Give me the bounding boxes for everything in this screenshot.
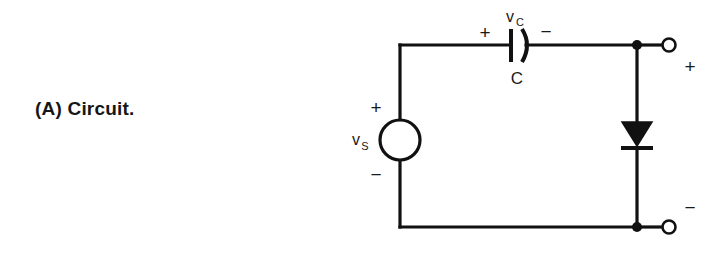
- voltage-source-symbol: [380, 120, 420, 160]
- voltage-source-plus-sign: +: [370, 97, 381, 118]
- diode-triangle: [622, 122, 652, 146]
- figure-caption: (A) Circuit.: [35, 98, 135, 120]
- voltage-source-label: v: [352, 131, 360, 148]
- voltage-source-minus-sign: −: [370, 164, 381, 185]
- output-minus-sign: −: [684, 197, 695, 218]
- capacitor-voltage-label: v: [506, 8, 514, 25]
- output-terminal-positive-icon: [663, 39, 676, 52]
- capacitor-plus-sign: +: [479, 22, 490, 43]
- output-terminal-negative-icon: [663, 221, 676, 234]
- junction-dot-top-right: [632, 40, 642, 50]
- capacitor-voltage-label-subscript: C: [516, 16, 524, 28]
- capacitor-minus-sign: −: [540, 21, 551, 42]
- circuit-diagram: v S + − v C + − C + −: [330, 0, 724, 264]
- junction-dot-bottom-right: [632, 222, 642, 232]
- voltage-source-label-subscript: S: [361, 140, 368, 152]
- output-plus-sign: +: [684, 56, 695, 77]
- capacitor-component-label: C: [511, 69, 523, 88]
- figure-root: (A) Circuit. v S + − v C + − C: [0, 0, 724, 264]
